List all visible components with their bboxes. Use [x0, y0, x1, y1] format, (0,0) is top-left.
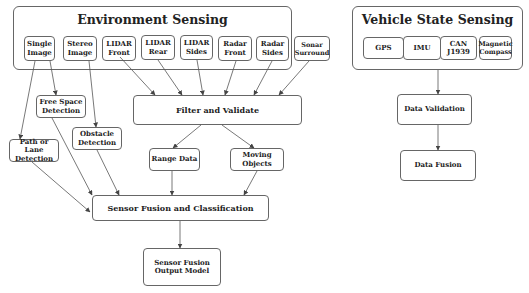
range-data: Range Data [149, 148, 200, 171]
sensor-sonar-surround: Sonar Surround [294, 36, 330, 61]
sensor-lidar-sides: LIDAR Sides [180, 35, 213, 60]
path-or-lane-detection: Path or Lane Detection [9, 139, 59, 162]
obstacle-detection: Obstacle Detection [72, 127, 122, 150]
sensor-stereo-image: Stereo Image [63, 36, 97, 61]
environment-sensing-title: Environment Sensing [14, 12, 291, 27]
sensor-can-j1939: CAN J1939 [440, 36, 477, 60]
moving-objects: Moving Objects [230, 148, 284, 171]
data-validation: Data Validation [397, 94, 472, 125]
sensor-fusion-and-classification: Sensor Fusion and Classification [92, 195, 269, 221]
sensor-gps: GPS [363, 37, 404, 59]
sensor-imu: IMU [403, 36, 441, 60]
free-space-detection: Free Space Detection [36, 95, 86, 118]
filter-and-validate: Filter and Validate [133, 95, 302, 125]
vehicle-state-sensing-title: Vehicle State Sensing [353, 12, 522, 27]
sensor-lidar-rear: LIDAR Rear [141, 35, 175, 60]
sensor-radar-sides: Radar Sides [256, 36, 289, 61]
sensor-magnetic-compass: Magnetic Compass [479, 36, 512, 60]
sensor-radar-front: Radar Front [218, 36, 252, 61]
sensor-fusion-output-model: Sensor Fusion Output Model [143, 248, 221, 286]
data-fusion: Data Fusion [400, 150, 476, 181]
sensor-single-image: Single Image [24, 36, 55, 61]
sensor-architecture-diagram: Environment Sensing Vehicle State Sensin… [0, 0, 529, 293]
sensor-lidar-front: LIDAR Front [102, 36, 136, 61]
